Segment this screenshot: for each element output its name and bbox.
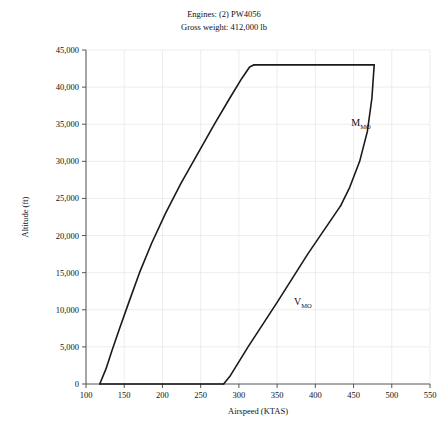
- x-axis-title: Airspeed (KTAS): [228, 406, 288, 416]
- x-axis-tick-label: 500: [385, 390, 398, 400]
- grid-lines: [86, 50, 430, 384]
- envelope-segment: [224, 206, 341, 384]
- envelope-boundary: [100, 65, 374, 384]
- axis-lines: [86, 50, 430, 384]
- annotation-subscript: MO: [360, 123, 371, 130]
- mach-limit-label: MMO: [351, 117, 371, 130]
- curve-annotations: MMOVMO: [294, 117, 371, 310]
- x-axis-tick-label: 350: [271, 390, 284, 400]
- x-axis-tick-label: 550: [424, 390, 437, 400]
- chart-canvas: 10015020025030035040045050055005,00010,0…: [0, 0, 448, 431]
- x-axis-tick-label: 200: [156, 390, 169, 400]
- annotation-base: M: [351, 117, 360, 128]
- y-axis-title: Altitude (ft): [20, 196, 30, 237]
- x-axis-tick-label: 400: [309, 390, 322, 400]
- x-axis-tick-label: 450: [347, 390, 360, 400]
- envelope-segment: [100, 65, 254, 384]
- x-axis-tick-label: 250: [194, 390, 207, 400]
- x-axis-tick-label: 150: [118, 390, 131, 400]
- y-axis-tick-label: 45,000: [56, 45, 79, 55]
- y-axis-tick-label: 0: [75, 379, 79, 389]
- x-axis-tick-label: 300: [233, 390, 246, 400]
- y-axis-tick-label: 5,000: [60, 342, 79, 352]
- airspeed-limit-label: VMO: [294, 296, 312, 309]
- y-axis-tick-label: 30,000: [56, 156, 79, 166]
- y-axis-tick-label: 20,000: [56, 231, 79, 241]
- x-axis-tick-label: 100: [80, 390, 93, 400]
- envelope-segment: [341, 65, 375, 206]
- y-axis-tick-label: 35,000: [56, 119, 79, 129]
- annotation-subscript: MO: [301, 302, 312, 309]
- y-axis-tick-label: 40,000: [56, 82, 79, 92]
- axis-ticks: [82, 50, 430, 388]
- flight-envelope-chart: 10015020025030035040045050055005,00010,0…: [0, 0, 448, 431]
- y-axis-tick-label: 25,000: [56, 193, 79, 203]
- y-axis-tick-label: 10,000: [56, 305, 79, 315]
- y-axis-tick-label: 15,000: [56, 268, 79, 278]
